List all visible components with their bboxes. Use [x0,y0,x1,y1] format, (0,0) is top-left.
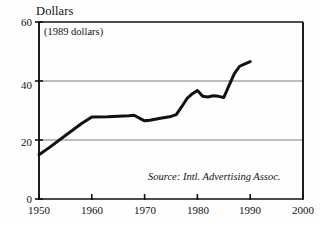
x-tick-label-1960: 1960 [72,204,112,216]
chart-gridlines [39,81,303,140]
chart-subtitle: (1989 dollars) [44,26,103,38]
y-tick-label-20: 20 [10,136,32,148]
chart-source-annotation: Source: Intl. Advertising Assoc. [148,171,281,183]
x-tick-label-1970: 1970 [125,204,165,216]
y-tick-label-40: 40 [10,79,32,91]
x-tick-label-1950: 1950 [19,204,59,216]
x-tick-label-2000: 2000 [283,204,320,216]
chart-series-line [39,62,250,155]
x-tick-label-1980: 1980 [178,204,218,216]
chart-container: Dollars (1989 dollars) Source: Intl. Adv… [0,0,320,225]
y-tick-label-60: 60 [10,16,32,28]
x-tick-label-1990: 1990 [230,204,270,216]
chart-axis-title-dollars: Dollars [36,4,74,18]
